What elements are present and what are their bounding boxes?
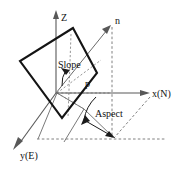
normal-vector-label: n — [115, 15, 120, 26]
figure-root: Z n x(N) y(E) Slope p Aspect — [0, 0, 183, 170]
slope-aspect-diagram: Z n x(N) y(E) Slope p Aspect — [0, 0, 183, 170]
x-axis-arrowhead — [140, 90, 150, 96]
normal-vector-arrowhead — [102, 25, 111, 34]
inclined-plane — [20, 28, 97, 118]
y-axis-arrowhead — [13, 137, 23, 150]
aspect-direction-arrowhead — [105, 131, 115, 138]
aspect-arc-arrowhead — [81, 115, 90, 125]
z-axis-arrowhead — [53, 10, 59, 19]
slope-symbol-label: p — [85, 78, 90, 89]
x-axis-label: x(N) — [152, 88, 171, 100]
aspect-direction-line — [84, 120, 110, 135]
aspect-label: Aspect — [95, 108, 123, 119]
y-axis-label: y(E) — [20, 150, 38, 162]
z-axis-label: Z — [61, 12, 67, 23]
slope-label: Slope — [58, 59, 81, 70]
inclined-plane-outline — [20, 28, 97, 118]
